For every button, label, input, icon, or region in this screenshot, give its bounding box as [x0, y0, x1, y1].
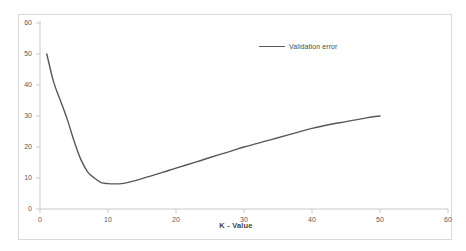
y-tick-label: 20 — [16, 143, 32, 151]
legend-label: Validation error — [289, 43, 338, 50]
y-tick-label: 0 — [16, 205, 32, 213]
x-axis-title: K - Value — [19, 221, 453, 230]
chart-frame: 0 10 20 30 40 50 60 0 10 20 30 40 50 60 … — [18, 14, 452, 240]
y-tick-label: 30 — [16, 112, 32, 120]
legend-line-swatch-icon — [259, 46, 285, 47]
validation-error-plot — [19, 15, 453, 241]
chart-legend: Validation error — [259, 43, 338, 50]
y-tick-label: 40 — [16, 81, 32, 89]
y-tick-label: 50 — [16, 50, 32, 58]
chart-screenshot: 0 10 20 30 40 50 60 0 10 20 30 40 50 60 … — [0, 0, 466, 251]
plot-area: 0 10 20 30 40 50 60 0 10 20 30 40 50 60 … — [19, 15, 453, 241]
series-line-validation-error — [47, 54, 380, 184]
x-tick-marks — [40, 209, 448, 213]
y-tick-marks — [36, 23, 40, 209]
y-tick-label: 10 — [16, 174, 32, 182]
y-tick-label: 60 — [16, 19, 32, 27]
